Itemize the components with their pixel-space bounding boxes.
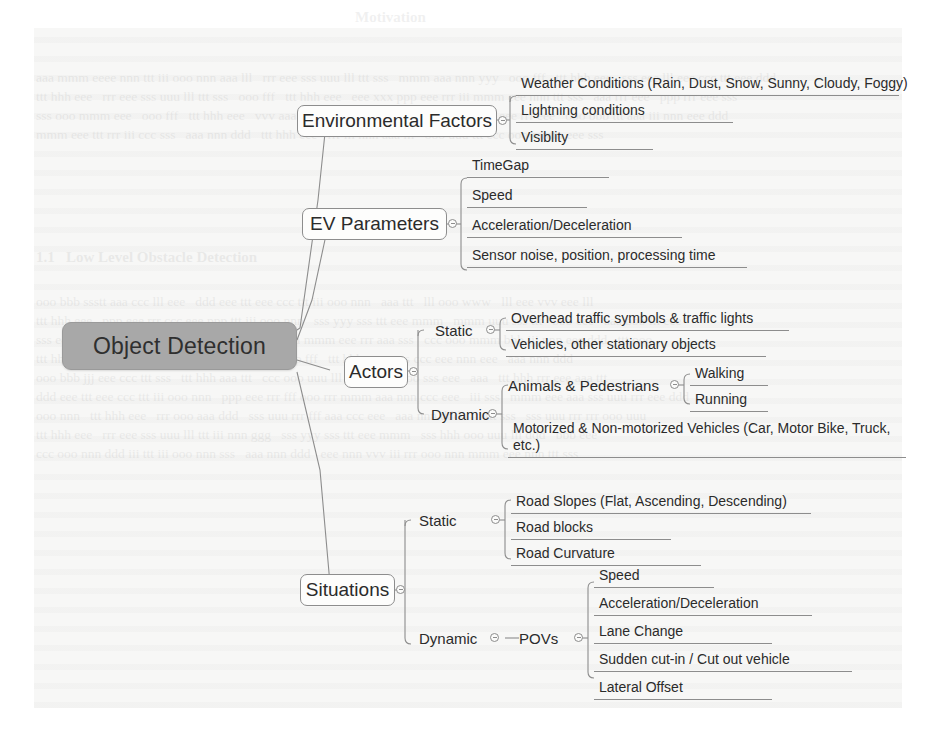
subnode-label: Animals & Pedestrians	[508, 377, 659, 394]
leaf-running[interactable]: Running	[690, 392, 768, 412]
group-label-situations-dynamic[interactable]: Dynamic	[419, 629, 477, 648]
leaf-weather-conditions[interactable]: Weather Conditions (Rain, Dust, Snow, Su…	[516, 76, 899, 96]
leaf-motorized-nonmotorized-vehicles[interactable]: Motorized & Non-motorized Vehicles (Car,…	[508, 420, 906, 458]
group-label: Dynamic	[431, 406, 489, 423]
collapse-handle-environmental-factors[interactable]	[498, 116, 507, 125]
leaf-povs-lateral-offset[interactable]: Lateral Offset	[594, 680, 772, 700]
leaf-label: Road Slopes (Flat, Ascending, Descending…	[516, 493, 787, 510]
leaf-label: Vehicles, other stationary objects	[511, 336, 716, 353]
leaf-road-curvature[interactable]: Road Curvature	[511, 546, 701, 566]
leaf-visibility[interactable]: Visiblity	[516, 130, 653, 150]
collapse-handle-ev-parameters[interactable]	[448, 219, 457, 228]
leaf-label: Walking	[695, 365, 744, 382]
root-node-label: Object Detection	[93, 333, 266, 360]
leaf-label: Acceleration/Deceleration	[472, 217, 632, 234]
leaf-sensor-noise[interactable]: Sensor noise, position, processing time	[467, 248, 747, 268]
leaf-label: Lateral Offset	[599, 679, 683, 696]
leaf-label: TimeGap	[472, 157, 529, 174]
leaf-label: Speed	[599, 567, 639, 584]
subnode-label: POVs	[519, 630, 558, 647]
leaf-label: Visiblity	[521, 129, 568, 146]
collapse-handle-situations-static[interactable]	[491, 515, 500, 524]
branch-node-ev-parameters[interactable]: EV Parameters	[302, 208, 447, 240]
leaf-label: Weather Conditions (Rain, Dust, Snow, Su…	[521, 75, 908, 92]
leaf-label: Lane Change	[599, 623, 683, 640]
group-label-actors-static[interactable]: Static	[435, 321, 473, 340]
leaf-povs-acceleration-deceleration[interactable]: Acceleration/Deceleration	[594, 596, 812, 616]
leaf-lightning-conditions[interactable]: Lightning conditions	[516, 103, 733, 123]
leaf-label: Acceleration/Deceleration	[599, 595, 759, 612]
branch-node-environmental-factors[interactable]: Environmental Factors	[297, 105, 497, 137]
group-label: Dynamic	[419, 630, 477, 647]
leaf-acceleration-deceleration[interactable]: Acceleration/Deceleration	[467, 218, 682, 238]
collapse-handle-actors[interactable]	[409, 367, 418, 376]
leaf-label: Motorized & Non-motorized Vehicles (Car,…	[513, 420, 890, 453]
leaf-vehicles-stationary-objects[interactable]: Vehicles, other stationary objects	[506, 337, 766, 357]
leaf-overhead-traffic-symbols[interactable]: Overhead traffic symbols & traffic light…	[506, 311, 789, 331]
collapse-handle-povs[interactable]	[574, 633, 583, 642]
branch-label: Actors	[349, 361, 403, 383]
leaf-label: Overhead traffic symbols & traffic light…	[511, 310, 753, 327]
leaf-road-blocks[interactable]: Road blocks	[511, 520, 671, 540]
leaf-label: Sensor noise, position, processing time	[472, 247, 716, 264]
mindmap-canvas: Motivation aaa mmm eeee nnn ttt iii ooo …	[0, 0, 933, 745]
collapse-handle-situations[interactable]	[396, 585, 405, 594]
subnode-animals-pedestrians[interactable]: Animals & Pedestrians	[508, 376, 659, 395]
subnode-povs[interactable]: POVs	[519, 629, 558, 648]
leaf-povs-sudden-cut-in[interactable]: Sudden cut-in / Cut out vehicle	[594, 652, 852, 672]
leaf-road-slopes[interactable]: Road Slopes (Flat, Ascending, Descending…	[511, 494, 811, 514]
branch-label: EV Parameters	[310, 213, 439, 235]
leaf-label: Road Curvature	[516, 545, 615, 562]
branch-label: Environmental Factors	[302, 110, 492, 132]
collapse-handle-situations-dynamic[interactable]	[490, 633, 499, 642]
branch-label: Situations	[306, 579, 389, 601]
leaf-label: Road blocks	[516, 519, 593, 536]
leaf-label: Running	[695, 391, 747, 408]
group-label-actors-dynamic[interactable]: Dynamic	[431, 405, 489, 424]
leaf-label: Lightning conditions	[521, 102, 645, 119]
leaf-label: Speed	[472, 187, 512, 204]
leaf-timegap[interactable]: TimeGap	[467, 158, 609, 178]
collapse-handle-actors-dynamic[interactable]	[488, 409, 497, 418]
group-label: Static	[419, 512, 457, 529]
leaf-walking[interactable]: Walking	[690, 366, 768, 386]
group-label-situations-static[interactable]: Static	[419, 511, 457, 530]
root-node-object-detection[interactable]: Object Detection	[62, 322, 297, 370]
leaf-speed[interactable]: Speed	[467, 188, 587, 208]
group-label: Static	[435, 322, 473, 339]
collapse-handle-animals-pedestrians[interactable]	[670, 380, 679, 389]
leaf-povs-lane-change[interactable]: Lane Change	[594, 624, 772, 644]
branch-node-actors[interactable]: Actors	[344, 356, 408, 388]
branch-node-situations[interactable]: Situations	[300, 574, 395, 606]
leaf-label: Sudden cut-in / Cut out vehicle	[599, 651, 790, 668]
collapse-handle-actors-static[interactable]	[486, 325, 495, 334]
leaf-povs-speed[interactable]: Speed	[594, 568, 714, 588]
